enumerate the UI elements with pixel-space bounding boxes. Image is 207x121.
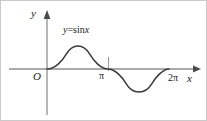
x-axis-arrow-icon: [193, 65, 201, 72]
curve-label-equals-sin: =sin: [67, 24, 84, 35]
sine-curve-figure: y x O π 2π y=sinx: [0, 0, 207, 121]
x-axis-label: x: [187, 73, 192, 84]
curve-label-variable: x: [85, 24, 89, 35]
curve-equation-label: y=sinx: [63, 25, 89, 35]
figure-canvas: [1, 1, 207, 121]
y-axis-label: y: [31, 8, 36, 19]
x-tick-label-pi: π: [99, 71, 104, 81]
x-tick-label-2pi: 2π: [168, 73, 178, 83]
y-axis-arrow-icon: [44, 10, 51, 19]
origin-label: O: [33, 71, 41, 82]
